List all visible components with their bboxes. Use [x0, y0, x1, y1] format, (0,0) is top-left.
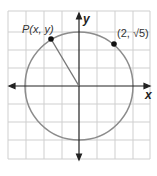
y-axis-label: y: [83, 13, 90, 25]
radius-segment: [51, 39, 79, 86]
point-given-label: (2, √5): [117, 28, 149, 39]
y-axis-up-arrow-icon: [77, 13, 82, 19]
point-given: [111, 41, 117, 47]
point-p-label: P(x, y): [22, 24, 54, 35]
x-axis-label: x: [145, 89, 152, 101]
x-axis-left-arrow-icon: [9, 84, 15, 89]
point-p: [48, 36, 54, 42]
